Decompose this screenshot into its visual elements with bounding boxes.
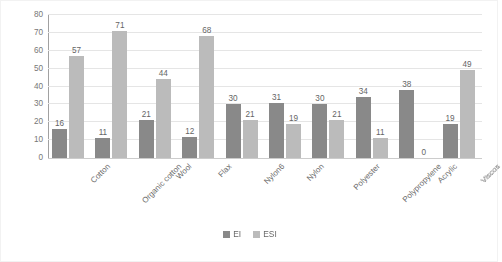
legend-label: EI	[233, 229, 241, 239]
bar-esi: 57	[69, 56, 84, 158]
y-axis-tick-label: 50	[34, 63, 43, 72]
x-axis-line	[48, 158, 482, 159]
bar-ei: 11	[95, 138, 110, 158]
bar-value-label: 30	[315, 94, 324, 103]
x-axis-tick-label: Viscos	[479, 162, 502, 185]
x-axis-tick-label: Flax	[216, 162, 233, 179]
bar-ei: 30	[226, 104, 241, 158]
bar-value-label: 68	[202, 26, 211, 35]
bar-value-label: 16	[55, 119, 64, 128]
bar-ei: 12	[182, 137, 197, 158]
bar-group: 3021	[308, 15, 351, 158]
bar-group: 1268	[178, 15, 221, 158]
y-axis-tick-label: 0	[38, 153, 43, 162]
legend-swatch-icon	[223, 231, 230, 238]
bar-ei: 30	[312, 104, 327, 158]
bar-group: 1171	[91, 15, 134, 158]
bar-value-label: 57	[72, 46, 81, 55]
bar-value-label: 12	[185, 127, 194, 136]
bar-value-label: 21	[142, 110, 151, 119]
bar-esi: 19	[286, 124, 301, 158]
bar-value-label: 38	[402, 80, 411, 89]
bar-esi: 44	[156, 79, 171, 158]
x-axis-tick-label: Polyester	[352, 162, 382, 192]
x-axis-tick-label: Nylon	[305, 162, 326, 183]
y-axis-tick-label: 80	[34, 10, 43, 19]
bar-ei: 16	[52, 129, 67, 158]
x-axis-tick-label: Organic cotton	[140, 162, 183, 205]
bar-ei: 21	[139, 120, 154, 158]
plot-area: 01020304050607080 1657117121441268302131…	[48, 15, 482, 158]
bar-esi: 49	[460, 70, 475, 158]
bar-value-label: 19	[446, 114, 455, 123]
bar-value-label: 31	[272, 93, 281, 102]
bar-esi: 21	[243, 120, 258, 158]
y-axis-tick-label: 60	[34, 45, 43, 54]
bar-esi: 21	[329, 120, 344, 158]
bar-group: 3021	[222, 15, 265, 158]
bar-ei: 19	[443, 124, 458, 158]
bar-ei: 38	[399, 90, 414, 158]
bar-esi: 71	[112, 31, 127, 158]
bar-group: 3411	[352, 15, 395, 158]
bar-value-label: 0	[421, 148, 426, 157]
bar-group: 2144	[135, 15, 178, 158]
legend-swatch-icon	[253, 231, 260, 238]
x-axis-tick-label: Cotton	[89, 162, 112, 185]
chart-legend: EIESI	[1, 229, 499, 239]
y-axis-tick-label: 20	[34, 117, 43, 126]
legend-label: ESI	[263, 229, 277, 239]
bar-value-label: 34	[359, 87, 368, 96]
bar-group: 380	[395, 15, 438, 158]
y-axis-tick-label: 40	[34, 81, 43, 90]
y-axis-tick-label: 30	[34, 99, 43, 108]
bar-group: 1657	[48, 15, 91, 158]
bar-esi: 11	[373, 138, 388, 158]
bar-group: 3119	[265, 15, 308, 158]
bar-value-label: 49	[463, 60, 472, 69]
bar-value-label: 21	[246, 110, 255, 119]
bar-value-label: 44	[159, 69, 168, 78]
bar-value-label: 11	[99, 128, 108, 137]
bar-value-label: 19	[289, 114, 298, 123]
bar-ei: 31	[269, 103, 284, 158]
bar-esi: 68	[199, 36, 214, 158]
legend-item[interactable]: EI	[223, 229, 241, 239]
bar-value-label: 11	[376, 128, 385, 137]
bar-group: 1949	[439, 15, 482, 158]
x-axis-tick-label: Nylon6	[263, 162, 287, 186]
bar-value-label: 71	[115, 21, 124, 30]
y-axis-tick-label: 70	[34, 27, 43, 36]
x-axis-tick-label: Polypropylene	[400, 162, 442, 204]
bar-ei: 34	[356, 97, 371, 158]
bar-value-label: 30	[229, 94, 238, 103]
legend-item[interactable]: ESI	[253, 229, 277, 239]
bar-value-label: 21	[332, 110, 341, 119]
y-axis-tick-label: 10	[34, 135, 43, 144]
